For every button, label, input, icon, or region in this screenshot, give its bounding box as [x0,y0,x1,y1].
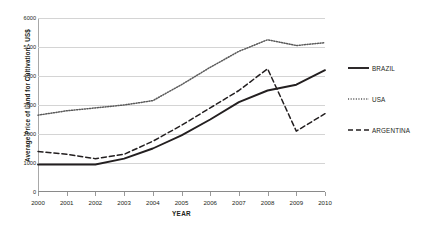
y-tick-label: 1000 [14,160,36,166]
x-tick-label: 2006 [195,199,225,206]
series-line-argentina [38,69,325,159]
series-line-usa [38,40,325,115]
x-tick-label: 2002 [80,199,110,206]
x-tick-mark [95,192,96,196]
y-tick-label: 2000 [14,131,36,137]
legend-label: ARGENTINA [372,127,410,134]
x-tick-mark [38,192,39,196]
plot-area [38,18,325,192]
legend-label: USA [372,96,385,103]
legend-swatch-brazil-icon [348,64,369,72]
y-tick-label: 5000 [14,44,36,50]
x-tick-mark [325,192,326,196]
y-axis-tick-labels: 0100020003000400050006000 [14,14,36,194]
x-tick-mark [210,192,211,196]
x-tick-mark [153,192,154,196]
legend-swatch-usa-icon [348,95,369,103]
x-tick-label: 2009 [281,199,311,206]
y-tick-label: 3000 [14,102,36,108]
x-tick-label: 2003 [109,199,139,206]
x-tick-mark [239,192,240,196]
x-tick-mark [182,192,183,196]
legend-swatch-argentina-icon [348,126,369,134]
y-tick-label: 4000 [14,73,36,79]
x-axis-tick-labels: 2000200120022003200420052006200720082009… [38,199,325,209]
x-tick-label: 2000 [23,199,53,206]
x-axis-title: YEAR [38,210,325,217]
x-tick-label: 2010 [310,199,340,206]
x-tick-label: 2008 [253,199,283,206]
legend-item-argentina[interactable]: ARGENTINA [348,125,410,135]
legend-item-usa[interactable]: USA [348,94,385,104]
line-chart: Average Price of Land for Cultivation - … [0,0,427,231]
x-tick-mark [296,192,297,196]
y-tick-label: 0 [14,189,36,195]
legend-label: BRAZIL [372,65,395,72]
x-tick-label: 2004 [138,199,168,206]
x-tick-label: 2001 [52,199,82,206]
x-tick-mark [67,192,68,196]
x-tick-label: 2005 [167,199,197,206]
x-tick-mark [268,192,269,196]
x-tick-label: 2007 [224,199,254,206]
x-tick-mark [124,192,125,196]
series-lines [38,18,325,192]
legend-item-brazil[interactable]: BRAZIL [348,63,395,73]
y-tick-label: 6000 [14,15,36,21]
